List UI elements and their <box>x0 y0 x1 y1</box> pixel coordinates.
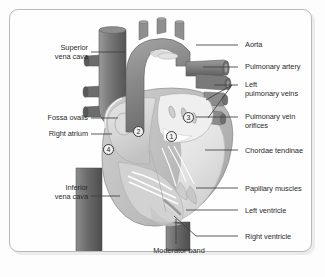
label-pulmonary-artery: Pulmonary artery <box>245 62 325 71</box>
label-left-ventricle: Left ventricle <box>245 206 325 215</box>
marker-2: 2 <box>133 126 144 137</box>
marker-4: 4 <box>103 144 114 155</box>
pulmonary-artery-vessel <box>186 60 228 76</box>
label-aorta: Aorta <box>245 40 323 49</box>
label-moderator-band: Moderator band <box>139 246 219 255</box>
left-common-carotid-branch <box>157 19 166 34</box>
label-left-pulmonary-veins: Left pulmonary veins <box>245 80 325 99</box>
label-right-ventricle: Right ventricle <box>245 232 325 241</box>
label-papillary-muscles: Papillary muscles <box>245 184 325 193</box>
pulmonary-artery-branch-2 <box>196 74 230 90</box>
label-chordae-tendinae: Chordae tendinae <box>245 146 325 155</box>
label-fossa-ovalis: Fossa ovalis <box>14 113 88 122</box>
label-right-atrium: Right atrium <box>14 129 88 138</box>
label-superior-vena-cava: Superior vena cava <box>18 43 88 62</box>
heart-anatomy-figure: Superior vena cava Fossa ovalis Right at… <box>0 0 325 277</box>
inferior-vena-cava-vessel <box>76 168 102 252</box>
marker-3: 3 <box>183 112 194 123</box>
marker-1: 1 <box>166 131 177 142</box>
label-pulmonary-vein-orifices: Pulmonary vein orifices <box>245 112 325 131</box>
label-inferior-vena-cava: Inferior vena cava <box>18 183 88 202</box>
left-subclavian-branch <box>175 22 184 40</box>
brachiocephalic-branch <box>139 22 148 40</box>
